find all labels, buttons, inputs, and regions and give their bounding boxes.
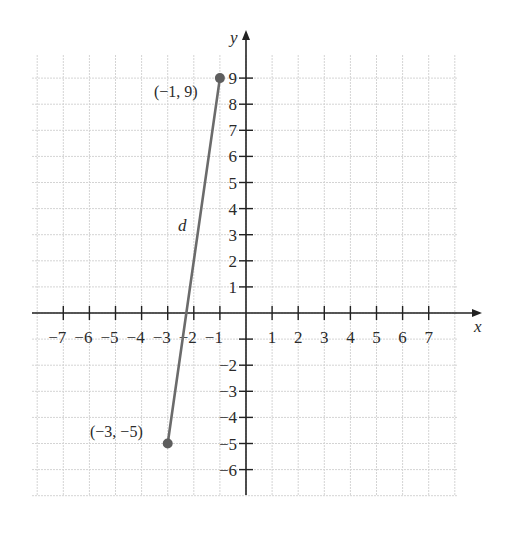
- data-point: [163, 439, 173, 449]
- y-tick-label: 9: [229, 69, 238, 88]
- x-tick-label: 3: [320, 328, 329, 347]
- y-tick-label: 7: [229, 121, 238, 140]
- y-tick-label: −5: [219, 435, 237, 454]
- x-axis-arrow-icon: [472, 309, 482, 317]
- x-tick-label: 2: [294, 328, 303, 347]
- point-label-bottom: (−3, −5): [90, 423, 143, 441]
- y-tick-label: 8: [229, 95, 238, 114]
- y-tick-label: −2: [219, 356, 237, 375]
- coordinate-plane: −7−6−5−4−3−2−11234567−6−5−4−3−2123456789…: [0, 0, 511, 556]
- point-label-top: (−1, 9): [154, 83, 198, 101]
- segment-label-d: d: [178, 216, 187, 235]
- x-tick-label: −6: [74, 328, 92, 347]
- x-tick-label: 4: [346, 328, 355, 347]
- x-tick-label: −1: [205, 328, 223, 347]
- y-axis-arrow-icon: [242, 30, 250, 40]
- y-tick-label: 3: [229, 226, 238, 245]
- x-tick-label: 5: [372, 328, 381, 347]
- x-tick-label: 7: [424, 328, 433, 347]
- y-axis-label: y: [228, 28, 238, 47]
- y-tick-label: −6: [219, 461, 237, 480]
- x-tick-label: −4: [127, 328, 146, 347]
- y-tick-label: 6: [229, 147, 238, 166]
- y-tick-label: −4: [219, 408, 238, 427]
- x-tick-label: 6: [398, 328, 407, 347]
- x-tick-label: 1: [268, 328, 277, 347]
- x-tick-label: −5: [100, 328, 118, 347]
- x-axis-label: x: [473, 317, 482, 336]
- y-tick-label: 4: [229, 200, 238, 219]
- y-tick-label: 5: [229, 174, 238, 193]
- x-tick-label: −7: [48, 328, 67, 347]
- y-tick-label: 2: [229, 252, 238, 271]
- y-tick-label: −3: [219, 382, 237, 401]
- x-tick-label: −3: [153, 328, 171, 347]
- y-tick-label: 1: [229, 278, 238, 297]
- data-point: [215, 73, 225, 83]
